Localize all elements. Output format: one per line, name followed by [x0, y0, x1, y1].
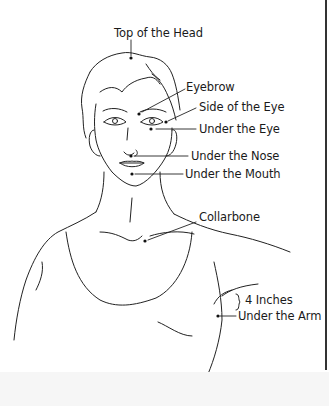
label-under-nose: Under the Nose — [191, 150, 279, 163]
page-edge-divider — [325, 0, 327, 370]
label-side-of-eye: Side of the Eye — [199, 101, 284, 114]
label-under-eye: Under the Eye — [199, 123, 280, 136]
label-top-of-head: Top of the Head — [114, 27, 203, 40]
label-under-mouth: Under the Mouth — [185, 168, 281, 181]
label-eyebrow: Eyebrow — [186, 81, 235, 94]
bottom-margin — [0, 372, 329, 406]
label-four-inches: 4 Inches — [245, 294, 293, 307]
label-under-arm: Under the Arm — [238, 310, 321, 323]
tapping-points-diagram: Top of the Head Eyebrow Side of the Eye … — [0, 0, 329, 406]
figure-line-drawing — [0, 0, 329, 406]
label-collarbone: Collarbone — [199, 211, 260, 224]
